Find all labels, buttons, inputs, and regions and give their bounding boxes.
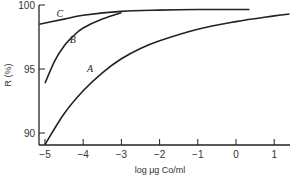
y-tick-label: 100 [18, 0, 35, 11]
x-tick-label: 0 [233, 149, 239, 160]
y-tick-label: 95 [24, 64, 36, 75]
curves [39, 9, 289, 144]
curve-a [45, 14, 290, 145]
x-tick-label: −5 [39, 149, 51, 160]
x-tick-label: −1 [192, 149, 204, 160]
x-axis-title: log μg Co/ml [135, 165, 186, 175]
x-tick-label: −4 [77, 149, 89, 160]
curve-b [45, 13, 121, 83]
x-tick-label: 1 [271, 149, 277, 160]
y-tick-label: 90 [24, 128, 36, 139]
curve-labels: CBA [56, 8, 94, 74]
x-tick-label: −3 [116, 149, 128, 160]
y-ticks: 9095100 [18, 0, 45, 139]
y-axis-title: R (%) [3, 64, 13, 87]
curve-label-c: C [56, 8, 63, 19]
x-ticks: −5−4−3−2−101 [39, 139, 277, 160]
x-tick-label: −2 [154, 149, 166, 160]
curve-c [39, 9, 249, 24]
chart: 9095100 −5−4−3−2−101 CBA log μg Co/ml R … [0, 0, 292, 177]
curve-label-a: A [86, 63, 94, 74]
curve-label-b: B [70, 34, 76, 45]
